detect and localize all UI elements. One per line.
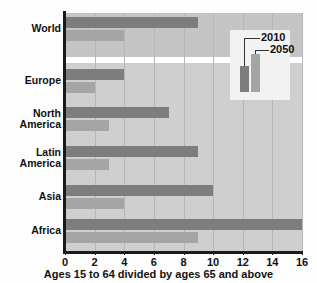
category-label-latin-america: LatinAmerica [1,147,61,170]
legend-leader-line-2010 [244,38,245,66]
category-label-africa: Africa [1,225,61,237]
bar-world-2010 [65,17,198,28]
bar-latin-america-2010 [65,146,198,157]
gridline-10 [213,13,214,251]
tick-label-8: 8 [172,256,196,268]
tick-label-12: 12 [231,256,255,268]
tick-label-2: 2 [83,256,107,268]
gridline-6 [154,13,155,251]
tick-label-6: 6 [142,256,166,268]
tick-mark-0 [65,251,66,255]
legend-label-2050: 2050 [270,43,294,55]
y-axis-line [63,11,66,253]
category-label-line: Europe [25,74,61,86]
bar-latin-america-2050 [65,159,109,170]
category-label-line: Africa [31,224,61,236]
tick-label-10: 10 [201,256,225,268]
bar-asia-2050 [65,198,124,209]
bar-africa-2050 [65,232,198,243]
bar-world-2050 [65,30,124,41]
legend-leader-line-2010-horizontal [244,38,260,39]
tick-label-4: 4 [112,256,136,268]
gridline-8 [184,13,185,251]
bar-asia-2010 [65,185,213,196]
bar-africa-2010 [65,219,302,230]
tick-label-14: 14 [260,256,284,268]
category-label-europe: Europe [1,75,61,87]
tick-mark-10 [213,251,214,255]
bar-chart: 0246810121416 WorldEuropeNorthAmericaLat… [0,0,317,283]
category-label-line: Asia [39,190,61,202]
category-label-line: North [33,107,61,119]
legend-swatch-2050 [251,54,260,92]
tick-mark-8 [184,251,185,255]
tick-mark-6 [154,251,155,255]
category-label-line: America [20,157,61,169]
legend: 2010 2050 [230,30,290,100]
category-label-line: Latin [36,146,61,158]
legend-label-2010: 2010 [261,31,285,43]
gridline-16 [302,13,303,251]
bar-north-america-2050 [65,120,109,131]
tick-mark-2 [95,251,96,255]
bar-europe-2010 [65,69,124,80]
tick-mark-12 [243,251,244,255]
tick-mark-16 [302,251,303,255]
bar-europe-2050 [65,82,95,93]
category-label-line: America [20,118,61,130]
category-label-north-america: NorthAmerica [1,108,61,131]
gridline-2 [95,13,96,251]
tick-mark-14 [272,251,273,255]
category-labels: WorldEuropeNorthAmericaLatinAmericaAsiaA… [0,0,61,283]
legend-swatch-2010 [240,66,249,92]
tick-label-16: 16 [290,256,314,268]
category-label-line: World [31,22,61,34]
tick-mark-4 [124,251,125,255]
category-label-asia: Asia [1,191,61,203]
bar-north-america-2010 [65,107,169,118]
gridline-4 [124,13,125,251]
legend-leader-line-2050-horizontal [255,50,269,51]
x-axis-title: Ages 15 to 64 divided by ages 65 and abo… [0,268,317,280]
category-label-world: World [1,23,61,35]
